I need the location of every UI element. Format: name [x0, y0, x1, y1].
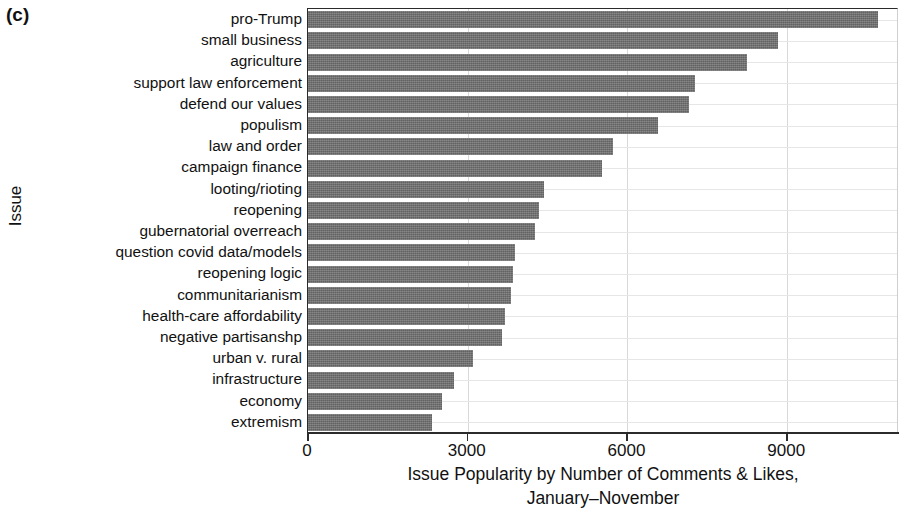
y-tick-label: pro-Trump: [30, 8, 302, 29]
y-tick-label: defend our values: [30, 93, 302, 114]
y-tick-label: campaign finance: [30, 156, 302, 177]
y-tick-label: economy: [30, 390, 302, 411]
bar: [308, 96, 689, 113]
y-tick-label: small business: [30, 29, 302, 50]
y-tick-label: reopening: [30, 199, 302, 220]
bar: [308, 223, 535, 240]
y-tick-label: communitarianism: [30, 284, 302, 305]
bar: [308, 287, 511, 304]
x-tick-mark: [307, 434, 309, 441]
bar: [308, 138, 613, 155]
bar: [308, 266, 513, 283]
x-axis-line: [307, 432, 899, 434]
y-tick-label: infrastructure: [30, 368, 302, 389]
x-tick-label: 3000: [427, 441, 507, 461]
bar: [308, 181, 544, 198]
x-axis-title: Issue Popularity by Number of Comments &…: [307, 462, 899, 510]
bar: [308, 202, 539, 219]
x-tick-mark: [786, 434, 788, 441]
bar: [308, 414, 432, 431]
bars-layer: [308, 9, 897, 432]
x-tick-mark: [467, 434, 469, 441]
x-tick-label: 9000: [746, 441, 826, 461]
bar: [308, 244, 515, 261]
y-tick-label: question covid data/models: [30, 241, 302, 262]
y-tick-label: reopening logic: [30, 262, 302, 283]
y-tick-label: looting/rioting: [30, 178, 302, 199]
y-tick-label: agriculture: [30, 50, 302, 71]
x-tick-mark: [626, 434, 628, 441]
y-axis-title: Issue: [6, 176, 26, 236]
y-tick-label: health-care affordability: [30, 305, 302, 326]
bar: [308, 308, 505, 325]
y-tick-label: support law enforcement: [30, 72, 302, 93]
bar: [308, 75, 695, 92]
bar: [308, 54, 747, 71]
x-axis-title-line2: January–November: [307, 486, 899, 510]
y-tick-label: law and order: [30, 135, 302, 156]
bar: [308, 11, 878, 28]
y-tick-label: populism: [30, 114, 302, 135]
bar: [308, 117, 658, 134]
y-tick-label: extremism: [30, 411, 302, 432]
bar: [308, 32, 778, 49]
bar: [308, 372, 454, 389]
panel-label: (c): [6, 4, 29, 26]
bar: [308, 350, 473, 367]
y-tick-label: urban v. rural: [30, 347, 302, 368]
bar: [308, 393, 442, 410]
x-tick-label: 6000: [586, 441, 666, 461]
y-tick-label: gubernatorial overreach: [30, 220, 302, 241]
figure-panel-c: (c) Issue pro-Trumpsmall businessagricul…: [0, 0, 906, 513]
y-tick-label: negative partisanshp: [30, 326, 302, 347]
bar: [308, 160, 602, 177]
y-axis-tick-labels: pro-Trumpsmall businessagriculturesuppor…: [30, 8, 302, 432]
bar: [308, 329, 502, 346]
plot-panel: [307, 8, 898, 432]
x-axis-title-line1: Issue Popularity by Number of Comments &…: [307, 462, 899, 486]
x-tick-label: 0: [267, 441, 347, 461]
